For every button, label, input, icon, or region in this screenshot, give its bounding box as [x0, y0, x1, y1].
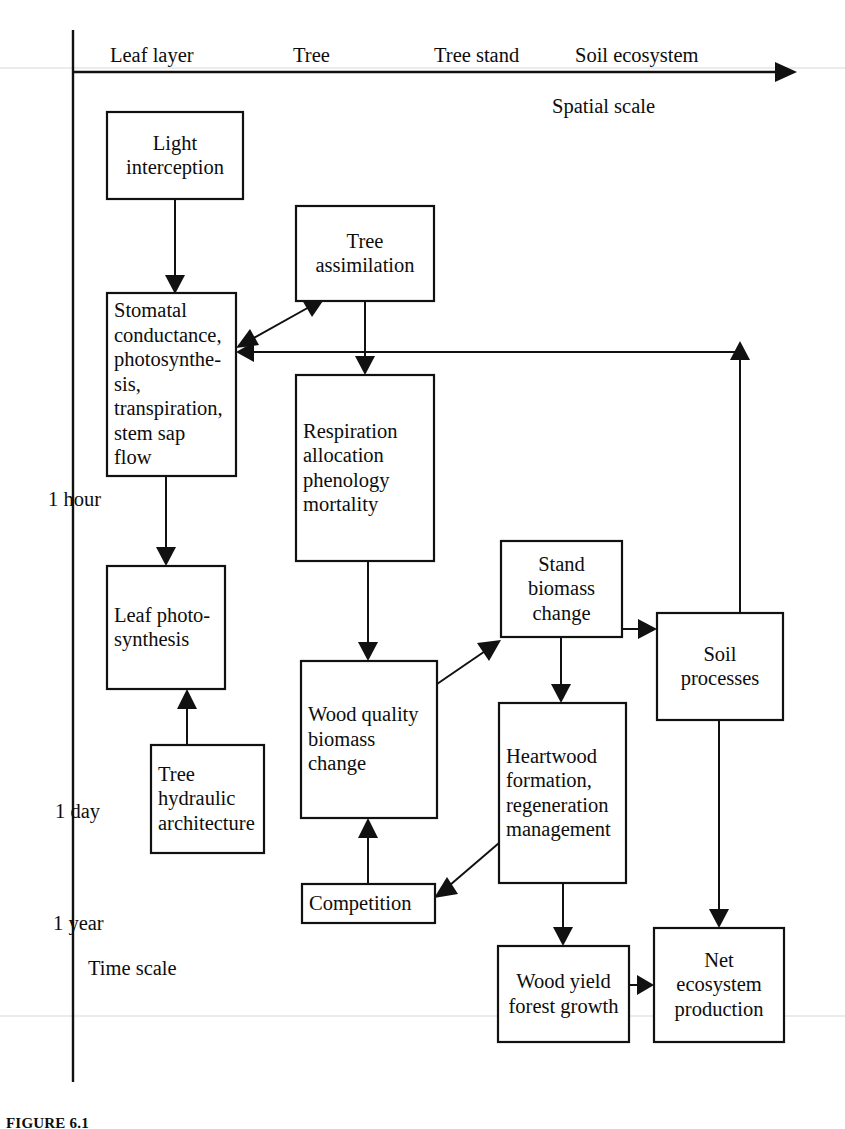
box-label-stomatal-conductance: stem sap: [114, 422, 185, 445]
box-label-wood-quality-biomass-change: change: [308, 752, 366, 775]
spatial-scale-label-leaf-layer: Leaf layer: [110, 44, 194, 67]
boxes-layer: LightinterceptionStomatalconductance,pho…: [107, 112, 784, 1042]
connection-woodyield-to-netecosystem: [629, 975, 654, 995]
spatial-scale-label-tree-stand: Tree stand: [434, 44, 519, 66]
box-label-wood-yield-forest-growth: Wood yield: [516, 970, 611, 993]
box-label-wood-yield-forest-growth: forest growth: [509, 995, 619, 1018]
box-label-respiration-allocation: Respiration: [303, 420, 398, 443]
connections-group: [156, 199, 750, 995]
box-label-stomatal-conductance: transpiration,: [114, 397, 223, 420]
figure-caption: FIGURE 6.1: [6, 1115, 89, 1129]
connection-respiration-to-woodquality: [358, 561, 378, 661]
spatial-axis-title: Spatial scale: [552, 95, 655, 118]
diagram-canvas: LightinterceptionStomatalconductance,pho…: [0, 0, 845, 1129]
spatial-axis-arrow-icon: [775, 62, 797, 82]
box-label-tree-hydraulic-architecture: architecture: [158, 812, 255, 834]
connection-standbiomass-to-heartwood: [551, 637, 571, 703]
box-label-net-ecosystem-production: Net: [704, 949, 734, 971]
connection-heartwood-to-woodyield: [553, 883, 573, 946]
spatial-scale-label-tree: Tree: [293, 44, 330, 66]
process-box-leaf-photosynthesis[interactable]: Leaf photo-synthesis: [107, 566, 225, 689]
figure-diagram: LightinterceptionStomatalconductance,pho…: [0, 0, 845, 1129]
box-label-respiration-allocation: mortality: [303, 493, 379, 516]
process-box-wood-quality-biomass-change[interactable]: Wood qualitybiomasschange: [301, 661, 437, 818]
box-label-soil-processes: Soil: [703, 643, 736, 665]
process-box-heartwood-formation[interactable]: Heartwoodformation,regenerationmanagemen…: [499, 703, 626, 883]
box-label-stomatal-conductance: Stomatal: [114, 299, 187, 321]
time-scale-label-one-day: 1 day: [55, 800, 101, 823]
process-box-wood-yield-forest-growth[interactable]: Wood yieldforest growth: [498, 946, 629, 1042]
time-scale-label-one-year: 1 year: [53, 912, 104, 935]
box-label-tree-hydraulic-architecture: hydraulic: [158, 787, 235, 810]
connection-light-to-stomatal: [165, 199, 185, 294]
box-label-tree-hydraulic-architecture: Tree: [158, 763, 195, 785]
box-label-light-interception: Light: [153, 132, 198, 155]
process-box-net-ecosystem-production[interactable]: Netecosystemproduction: [654, 928, 784, 1042]
connection-woodquality-to-standbiomass: [437, 640, 501, 684]
box-label-leaf-photosynthesis: Leaf photo-: [114, 604, 210, 627]
box-label-wood-quality-biomass-change: Wood quality: [308, 703, 419, 726]
connection-treeassim-to-respiration: [355, 301, 375, 375]
process-box-competition[interactable]: Competition: [302, 884, 435, 923]
time-axis-title: Time scale: [88, 957, 177, 979]
box-label-stomatal-conductance: conductance,: [114, 324, 222, 346]
connection-stomatal-treeassim-bidirectional: [236, 298, 325, 348]
box-label-heartwood-formation: management: [506, 818, 611, 841]
box-label-light-interception: interception: [126, 156, 224, 179]
box-label-tree-assimilation: Tree: [347, 230, 384, 252]
box-label-respiration-allocation: allocation: [303, 444, 384, 466]
connection-standbiomass-to-soil: [622, 619, 657, 639]
process-box-tree-assimilation[interactable]: Treeassimilation: [296, 206, 434, 301]
box-label-stand-biomass-change: biomass: [528, 577, 595, 599]
connection-competition-to-woodquality: [358, 818, 378, 884]
process-box-light-interception[interactable]: Lightinterception: [107, 112, 243, 199]
box-label-soil-processes: processes: [681, 667, 760, 690]
process-box-respiration-allocation[interactable]: Respirationallocationphenologymortality: [296, 375, 434, 561]
box-label-leaf-photosynthesis: synthesis: [114, 628, 189, 651]
connection-heartwood-to-competition: [434, 843, 499, 898]
box-label-heartwood-formation: formation,: [506, 769, 592, 791]
box-label-heartwood-formation: Heartwood: [506, 745, 597, 767]
box-label-tree-assimilation: assimilation: [315, 254, 414, 276]
box-label-stomatal-conductance: photosynthe-: [114, 348, 221, 371]
process-box-tree-hydraulic-architecture[interactable]: Treehydraulicarchitecture: [151, 745, 264, 853]
box-label-respiration-allocation: phenology: [303, 469, 390, 492]
process-box-stand-biomass-change[interactable]: Standbiomasschange: [501, 541, 622, 637]
box-label-stomatal-conductance: sis,: [114, 373, 141, 395]
process-box-stomatal-conductance[interactable]: Stomatalconductance,photosynthe-sis,tran…: [107, 293, 236, 476]
time-scale-label-one-hour: 1 hour: [48, 488, 101, 510]
box-label-stomatal-conductance: flow: [114, 446, 152, 468]
box-label-heartwood-formation: regeneration: [506, 794, 608, 817]
connection-stomatal-to-leafphoto: [156, 476, 176, 566]
box-label-wood-quality-biomass-change: biomass: [308, 728, 375, 750]
connection-soil-to-netecosystem: [709, 720, 729, 928]
spatial-scale-label-soil-ecosystem: Soil ecosystem: [575, 44, 699, 67]
box-label-stand-biomass-change: Stand: [538, 553, 585, 575]
box-label-stand-biomass-change: change: [532, 602, 590, 625]
process-box-soil-processes[interactable]: Soilprocesses: [657, 613, 783, 720]
connection-hydraulic-to-leafphoto: [177, 689, 197, 745]
box-label-net-ecosystem-production: production: [675, 998, 764, 1021]
box-label-competition: Competition: [309, 892, 412, 915]
box-label-net-ecosystem-production: ecosystem: [676, 973, 761, 996]
